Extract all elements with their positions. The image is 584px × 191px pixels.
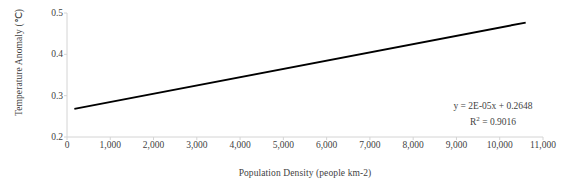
plot-area — [0, 0, 584, 191]
x-tick-label: 0 — [65, 141, 70, 151]
x-tick-label: 5,000 — [273, 141, 294, 151]
x-tick-label: 4,000 — [229, 141, 250, 151]
scatter-chart: Temperature Anomaly (℃) 0.5 0.4 0.3 0.2 … — [0, 0, 584, 191]
x-axis-tick-labels: 01,0002,0003,0004,0005,0006,0007,0008,00… — [0, 141, 584, 157]
trendline-r2: R2 = 0.9016 — [416, 113, 570, 129]
x-axis-title: Population Density (people km-2) — [67, 168, 543, 178]
r2-value: = 0.9016 — [480, 117, 516, 127]
x-tick-label: 3,000 — [186, 141, 207, 151]
x-tick-label: 9,000 — [446, 141, 467, 151]
trendline-equation: y = 2E-05x + 0.2648 — [416, 100, 570, 113]
trendline — [74, 23, 525, 109]
x-tick-label: 11,000 — [530, 141, 556, 151]
x-tick-label: 7,000 — [359, 141, 380, 151]
x-tick-label: 10,000 — [487, 141, 513, 151]
trendline-annotation: y = 2E-05x + 0.2648 R2 = 0.9016 — [416, 100, 570, 129]
x-tick-label: 1,000 — [100, 141, 121, 151]
x-tick-label: 2,000 — [143, 141, 164, 151]
x-tick-label: 8,000 — [402, 141, 423, 151]
x-tick-label: 6,000 — [316, 141, 337, 151]
